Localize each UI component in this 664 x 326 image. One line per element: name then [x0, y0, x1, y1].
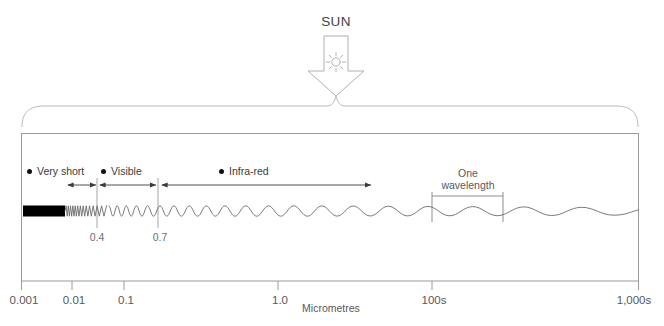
axis-tick-4: 100s [422, 295, 447, 307]
band-label-visible-text: Visible [111, 165, 142, 177]
band-label-infra-red-text: Infra-red [229, 165, 269, 177]
band-label-very-short: Very short [27, 166, 84, 177]
spectrum-diagram: SUN Very short Visible Infra-red 0.4 0.7… [0, 0, 664, 326]
band-label-visible: Visible [101, 166, 142, 177]
axis-ticks [22, 281, 639, 290]
axis-title: Micrometres [302, 303, 360, 314]
sun-source-label: SUN [321, 15, 351, 29]
axis-tick-0: 0.001 [10, 295, 39, 307]
band-label-infra-red: Infra-red [219, 166, 269, 177]
boundary-value-0-7: 0.7 [153, 232, 168, 243]
one-wavelength-line-1: One [458, 167, 478, 179]
electromagnetic-wave [65, 206, 639, 216]
spectrum-frame [22, 134, 639, 282]
wave-dense-block [23, 206, 65, 217]
bullet-icon-visible [101, 169, 106, 174]
axis-tick-5: 1,000s [617, 295, 652, 307]
axis-tick-3: 1.0 [272, 295, 288, 307]
bullet-icon-very-short [27, 169, 32, 174]
axis-tick-1: 0.01 [63, 295, 85, 307]
one-wavelength-label: One wavelength [423, 167, 513, 192]
band-label-very-short-text: Very short [37, 165, 84, 177]
bullet-icon-infra-red [219, 169, 224, 174]
curly-brace-icon [22, 96, 638, 127]
boundary-value-0-4: 0.4 [90, 232, 105, 243]
axis-tick-2: 0.1 [118, 295, 134, 307]
diagram-canvas [0, 0, 664, 326]
one-wavelength-marker [432, 192, 503, 222]
one-wavelength-line-2: wavelength [441, 179, 494, 191]
boundary-markers [97, 178, 158, 228]
